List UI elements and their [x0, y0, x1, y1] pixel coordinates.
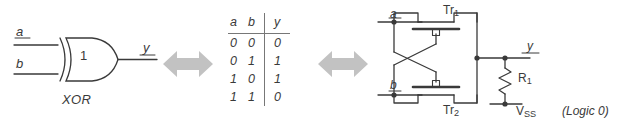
column-header-y: y: [264, 13, 289, 34]
cell-a: 1: [228, 70, 246, 88]
truth-table: a b y 0 0 0 0 1 1 1 0: [228, 13, 290, 106]
supply-name: V: [516, 104, 524, 118]
junction-dots: [391, 19, 507, 106]
cell-a: 1: [228, 88, 246, 106]
xor-gate-drawing: [0, 0, 160, 128]
cell-a: 0: [228, 52, 246, 70]
gate-output-y-label: y: [143, 41, 150, 54]
supply-subscript: SS: [524, 109, 536, 119]
circuit-input-a-label: a: [390, 8, 397, 20]
junction-dot-vss: [502, 101, 507, 106]
junction-dot-resistor-top: [502, 55, 507, 60]
double-headed-arrow-icon: [163, 48, 213, 80]
cell-y: 1: [264, 70, 289, 88]
table-row: 1 1 0: [228, 88, 290, 106]
cell-y: 1: [264, 52, 289, 70]
cell-b: 1: [246, 52, 264, 70]
transistor-2-subscript: 2: [454, 108, 459, 118]
table-row: 0 1 1: [228, 52, 290, 70]
gate-body-symbol-label: 1: [80, 49, 87, 62]
gate-input-b-label: b: [16, 57, 23, 70]
supply-note-label: (Logic 0): [562, 105, 609, 117]
junction-dot-output: [474, 55, 479, 60]
junction-dot-b: [391, 92, 396, 97]
transistor-1-name: Tr: [443, 3, 454, 17]
cell-y: 0: [264, 88, 289, 106]
truth-table-head: a b y: [228, 13, 290, 34]
table-row: 0 0 0: [228, 34, 290, 53]
arrow-shape: [163, 51, 213, 77]
column-header-a: a: [228, 13, 246, 34]
gate-input-a-label: a: [16, 25, 23, 38]
tr2-channel-bottom: [394, 95, 477, 103]
resistor-subscript: 1: [527, 76, 532, 86]
cell-a: 0: [228, 34, 246, 53]
resistor-label: R1: [518, 72, 532, 86]
double-headed-arrow-icon: [318, 48, 368, 80]
cell-y: 0: [264, 34, 289, 53]
truth-table-header-row: a b y: [228, 13, 290, 34]
column-header-b: b: [246, 13, 264, 34]
tr1-channel-top: [394, 13, 477, 22]
cell-b: 0: [246, 70, 264, 88]
gate-body: [66, 38, 118, 81]
resistor-name: R: [518, 71, 527, 85]
transistor-1-subscript: 1: [454, 8, 459, 18]
equivalence-arrow-1: [163, 48, 213, 80]
supply-label: VSS: [516, 105, 536, 119]
truth-table-panel: a b y 0 0 0 0 1 1 1 0: [228, 0, 308, 128]
transistor-2-label: Tr2: [443, 104, 459, 118]
xor-diagram: a b y 1 XOR a b y 0 0 0: [0, 0, 634, 128]
table-row: 1 0 1: [228, 70, 290, 88]
gate-xor-back-arc: [60, 38, 65, 81]
transistor-circuit-panel: a b Tr1 Tr2 y R1 VSS (Logic 0): [370, 0, 634, 128]
xor-gate-symbol-panel: a b y 1 XOR: [0, 0, 160, 128]
circuit-input-b-label: b: [390, 79, 397, 91]
gate-name-label: XOR: [62, 93, 91, 106]
cell-b: 0: [246, 34, 264, 53]
transistor-1-label: Tr1: [443, 4, 459, 18]
circuit-output-y-label: y: [527, 40, 533, 52]
truth-table-body: 0 0 0 0 1 1 1 0 1 1 1 0: [228, 34, 290, 107]
equivalence-arrow-2: [318, 48, 368, 80]
transistor-2-name: Tr: [443, 103, 454, 117]
resistor-zigzag: [499, 68, 511, 94]
arrow-shape: [318, 51, 368, 77]
cell-b: 1: [246, 88, 264, 106]
